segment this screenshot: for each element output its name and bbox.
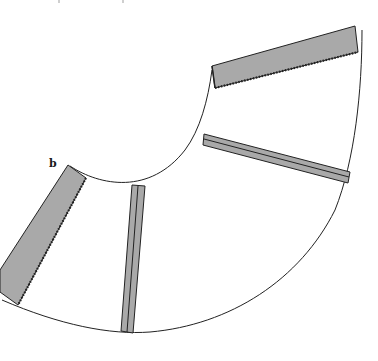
figure-label: b bbox=[49, 157, 57, 170]
right-pressed-seam bbox=[203, 134, 350, 183]
skirt-panel-diagram bbox=[0, 0, 378, 361]
left-serged-strip bbox=[0, 165, 86, 305]
top-serged-strip bbox=[212, 26, 358, 88]
center-pressed-seam bbox=[121, 185, 145, 333]
outer-hem-arc bbox=[2, 30, 362, 333]
inner-waist-arc bbox=[70, 70, 212, 182]
